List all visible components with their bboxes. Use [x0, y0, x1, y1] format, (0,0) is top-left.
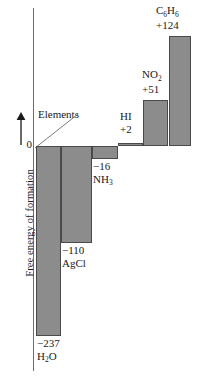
bar-no2 [143, 100, 168, 146]
bar-value-c6h6: +124 [156, 19, 179, 32]
bar-h2o [36, 146, 61, 336]
bar-agcl [61, 146, 92, 243]
y-axis-title-text: Free energy of formation [24, 169, 35, 276]
bar-value-nh3: −16 [93, 160, 113, 173]
bar-species-nh3: NH3 [93, 173, 113, 188]
bar-value-agcl: −110 [62, 244, 86, 257]
bar-label-agcl: −110AgCl [62, 244, 86, 269]
free-energy-of-formation-chart: 0 Free energy of formation Elements −237… [0, 0, 200, 381]
bar-species-c6h6: C6H6 [156, 4, 179, 19]
bar-value-h2o: −237 [37, 337, 60, 350]
bar-value-no2: +51 [142, 83, 162, 96]
bar-label-c6h6: C6H6+124 [156, 4, 179, 31]
bar-species-agcl: AgCl [62, 257, 86, 270]
bar-nh3 [92, 146, 118, 159]
bar-label-nh3: −16NH3 [93, 160, 113, 187]
bar-species-no2: NO2 [142, 68, 162, 83]
bar-label-no2: NO2+51 [142, 68, 162, 95]
bar-hi [118, 143, 143, 146]
bar-value-hi: +2 [120, 123, 132, 136]
bar-species-h2o: H2O [37, 350, 60, 365]
bar-species-hi: HI [120, 110, 132, 123]
bar-c6h6 [169, 36, 191, 146]
elements-annotation-label: Elements [38, 108, 79, 120]
bar-label-h2o: −237H2O [37, 337, 60, 364]
y-axis-title: Free energy of formation [19, 133, 35, 313]
bar-label-hi: HI+2 [120, 110, 132, 135]
